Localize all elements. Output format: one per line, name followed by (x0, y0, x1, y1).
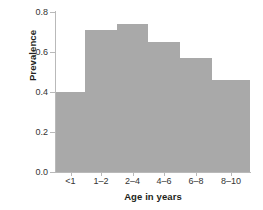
bar (212, 80, 250, 172)
x-axis-line (55, 172, 251, 173)
y-tick-label: 0.4 (16, 87, 48, 97)
plot-area (56, 12, 250, 172)
y-tick-label: 0.2 (16, 127, 48, 137)
y-tick-label: 0.8 (16, 7, 48, 17)
y-tick-label: 0.6 (16, 47, 48, 57)
y-tick-label: 0.0 (16, 167, 48, 177)
prevalence-by-age-bar-chart: Prevalence 0.00.20.40.60.8 <11–22–44–66–… (0, 0, 263, 210)
y-tick-mark (50, 132, 55, 133)
bar (56, 92, 85, 172)
y-tick-mark (50, 92, 55, 93)
x-tick-label: 4–6 (156, 176, 171, 186)
x-tick-label: 6–8 (188, 176, 203, 186)
x-axis-title: Age in years (56, 191, 250, 202)
x-tick-label: 1–2 (93, 176, 108, 186)
y-tick-mark (50, 12, 55, 13)
x-tick-label: <1 (65, 176, 75, 186)
bar (117, 24, 148, 172)
y-tick-mark (50, 52, 55, 53)
x-tick-label: 8–10 (221, 176, 241, 186)
bar (148, 42, 180, 172)
y-tick-mark (50, 172, 55, 173)
bar (180, 58, 212, 172)
x-tick-label: 2–4 (125, 176, 140, 186)
bar (85, 30, 117, 172)
